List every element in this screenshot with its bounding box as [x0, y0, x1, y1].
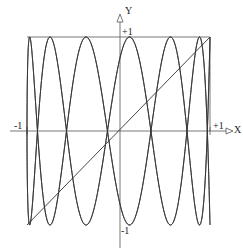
plot-area [0, 0, 243, 251]
y-axis-label: Y [125, 6, 132, 16]
x-axis-arrow-icon [226, 128, 233, 134]
x-axis-label: X [234, 125, 241, 135]
y-max-tick-label: +1 [122, 27, 133, 37]
x-max-tick-label: +1 [213, 121, 224, 131]
x-min-tick-label: -1 [14, 121, 22, 131]
y-min-tick-label: -1 [121, 226, 129, 236]
y-axis-arrow-icon [117, 14, 123, 22]
